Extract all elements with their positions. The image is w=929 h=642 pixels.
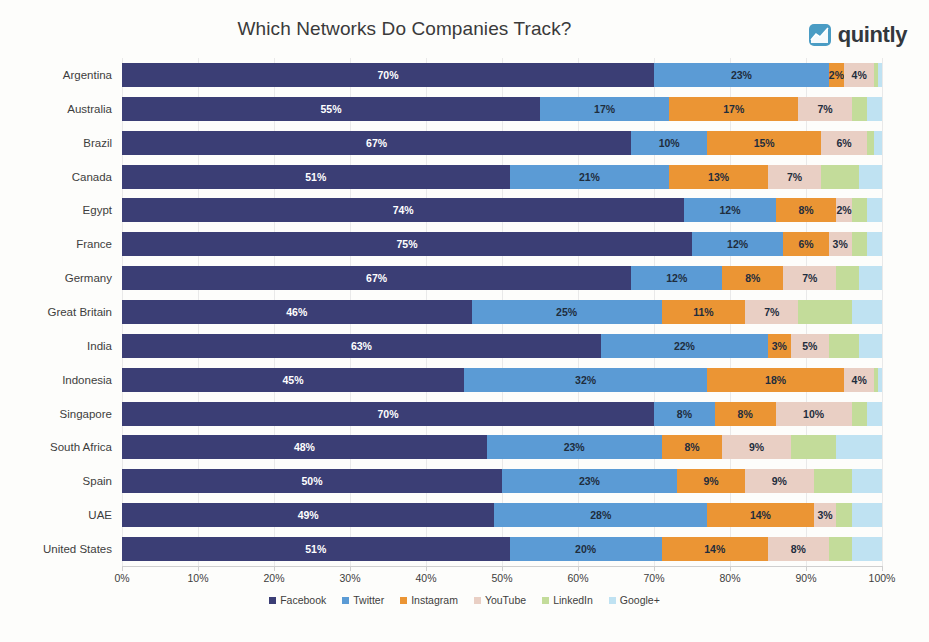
bar-segment-linkedin[interactable]	[829, 537, 852, 561]
bar-segment-facebook[interactable]: 45%	[122, 368, 464, 392]
bar-segment-google-plus[interactable]	[836, 435, 882, 459]
bar-segment-instagram[interactable]: 17%	[669, 97, 798, 121]
bar-segment-facebook[interactable]: 74%	[122, 198, 684, 222]
legend-item-instagram[interactable]: Instagram	[400, 594, 458, 606]
bar-segment-instagram[interactable]: 3%	[768, 334, 791, 358]
bar-segment-twitter[interactable]: 12%	[684, 198, 775, 222]
bar-segment-google-plus[interactable]	[874, 131, 882, 155]
bar-segment-youtube[interactable]: 8%	[768, 537, 829, 561]
bar-segment-facebook[interactable]: 67%	[122, 131, 631, 155]
bar-segment-google-plus[interactable]	[852, 537, 882, 561]
bar-segment-linkedin[interactable]	[836, 266, 859, 290]
bar-row[interactable]: Canada51%21%13%7%	[122, 165, 882, 189]
bar-segment-facebook[interactable]: 46%	[122, 300, 472, 324]
bar-segment-youtube[interactable]: 3%	[814, 503, 837, 527]
bar-segment-google-plus[interactable]	[859, 266, 882, 290]
bar-row[interactable]: South Africa48%23%8%9%	[122, 435, 882, 459]
bar-row[interactable]: Australia55%17%17%7%	[122, 97, 882, 121]
bar-segment-twitter[interactable]: 17%	[540, 97, 669, 121]
bar-segment-youtube[interactable]: 9%	[745, 469, 813, 493]
bar-segment-twitter[interactable]: 23%	[654, 63, 829, 87]
bar-segment-twitter[interactable]: 32%	[464, 368, 707, 392]
bar-segment-google-plus[interactable]	[852, 469, 882, 493]
bar-row[interactable]: Brazil67%10%15%6%	[122, 131, 882, 155]
bar-segment-facebook[interactable]: 75%	[122, 232, 692, 256]
legend-item-twitter[interactable]: Twitter	[342, 594, 384, 606]
bar-segment-google-plus[interactable]	[867, 402, 882, 426]
bar-segment-youtube[interactable]: 7%	[768, 165, 821, 189]
legend-item-facebook[interactable]: Facebook	[269, 594, 326, 606]
bar-row[interactable]: Great Britain46%25%11%7%	[122, 300, 882, 324]
bar-segment-instagram[interactable]: 14%	[662, 537, 768, 561]
bar-segment-twitter[interactable]: 12%	[631, 266, 722, 290]
bar-segment-facebook[interactable]: 49%	[122, 503, 494, 527]
bar-segment-youtube[interactable]: 7%	[745, 300, 798, 324]
bar-segment-facebook[interactable]: 70%	[122, 63, 654, 87]
bar-segment-youtube[interactable]: 6%	[821, 131, 867, 155]
bar-segment-instagram[interactable]: 11%	[662, 300, 746, 324]
bar-segment-google-plus[interactable]	[852, 503, 882, 527]
bar-segment-youtube[interactable]: 2%	[836, 198, 851, 222]
bar-segment-google-plus[interactable]	[852, 300, 882, 324]
bar-segment-youtube[interactable]: 9%	[722, 435, 790, 459]
bar-segment-instagram[interactable]: 8%	[722, 266, 783, 290]
bar-segment-twitter[interactable]: 10%	[631, 131, 707, 155]
bar-segment-twitter[interactable]: 8%	[654, 402, 715, 426]
bar-segment-instagram[interactable]: 8%	[776, 198, 837, 222]
bar-row[interactable]: United States51%20%14%8%	[122, 537, 882, 561]
bar-row[interactable]: Indonesia45%32%18%4%	[122, 368, 882, 392]
bar-segment-linkedin[interactable]	[852, 97, 867, 121]
bar-row[interactable]: Argentina70%23%2%4%	[122, 63, 882, 87]
bar-segment-linkedin[interactable]	[852, 402, 867, 426]
bar-segment-twitter[interactable]: 20%	[510, 537, 662, 561]
bar-segment-google-plus[interactable]	[867, 198, 882, 222]
bar-segment-instagram[interactable]: 9%	[677, 469, 745, 493]
bar-segment-google-plus[interactable]	[878, 63, 882, 87]
legend-item-linkedin[interactable]: LinkedIn	[542, 594, 593, 606]
bar-row[interactable]: Spain50%23%9%9%	[122, 469, 882, 493]
bar-segment-instagram[interactable]: 18%	[707, 368, 844, 392]
bar-segment-linkedin[interactable]	[829, 334, 859, 358]
bar-row[interactable]: France75%12%6%3%	[122, 232, 882, 256]
legend-item-youtube[interactable]: YouTube	[474, 594, 526, 606]
bar-segment-twitter[interactable]: 28%	[494, 503, 707, 527]
bar-segment-google-plus[interactable]	[878, 368, 882, 392]
bar-segment-facebook[interactable]: 50%	[122, 469, 502, 493]
bar-segment-linkedin[interactable]	[852, 232, 867, 256]
bar-segment-facebook[interactable]: 63%	[122, 334, 601, 358]
bar-segment-facebook[interactable]: 51%	[122, 165, 510, 189]
bar-segment-youtube[interactable]: 7%	[783, 266, 836, 290]
bar-segment-twitter[interactable]: 21%	[510, 165, 670, 189]
bar-segment-instagram[interactable]: 8%	[662, 435, 723, 459]
bar-segment-instagram[interactable]: 13%	[669, 165, 768, 189]
legend-item-google-plus[interactable]: Google+	[609, 594, 660, 606]
bar-segment-youtube[interactable]: 3%	[829, 232, 852, 256]
bar-segment-twitter[interactable]: 25%	[472, 300, 662, 324]
bar-segment-linkedin[interactable]	[821, 165, 859, 189]
bar-segment-google-plus[interactable]	[867, 232, 882, 256]
bar-segment-instagram[interactable]: 2%	[829, 63, 844, 87]
bar-segment-instagram[interactable]: 14%	[707, 503, 813, 527]
bar-segment-instagram[interactable]: 15%	[707, 131, 821, 155]
bar-row[interactable]: UAE49%28%14%3%	[122, 503, 882, 527]
bar-row[interactable]: India63%22%3%5%	[122, 334, 882, 358]
bar-segment-linkedin[interactable]	[798, 300, 851, 324]
bar-segment-twitter[interactable]: 22%	[601, 334, 768, 358]
bar-segment-youtube[interactable]: 7%	[798, 97, 851, 121]
bar-segment-instagram[interactable]: 8%	[715, 402, 776, 426]
bar-segment-twitter[interactable]: 12%	[692, 232, 783, 256]
bar-segment-google-plus[interactable]	[867, 97, 882, 121]
bar-segment-google-plus[interactable]	[859, 165, 882, 189]
bar-segment-linkedin[interactable]	[836, 503, 851, 527]
bar-segment-google-plus[interactable]	[859, 334, 882, 358]
bar-segment-linkedin[interactable]	[867, 131, 875, 155]
bar-segment-linkedin[interactable]	[791, 435, 837, 459]
bar-segment-facebook[interactable]: 55%	[122, 97, 540, 121]
bar-segment-instagram[interactable]: 6%	[783, 232, 829, 256]
bar-segment-youtube[interactable]: 5%	[791, 334, 829, 358]
bar-segment-facebook[interactable]: 48%	[122, 435, 487, 459]
bar-segment-youtube[interactable]: 10%	[776, 402, 852, 426]
bar-row[interactable]: Singapore70%8%8%10%	[122, 402, 882, 426]
bar-segment-facebook[interactable]: 67%	[122, 266, 631, 290]
bar-segment-youtube[interactable]: 4%	[844, 368, 874, 392]
